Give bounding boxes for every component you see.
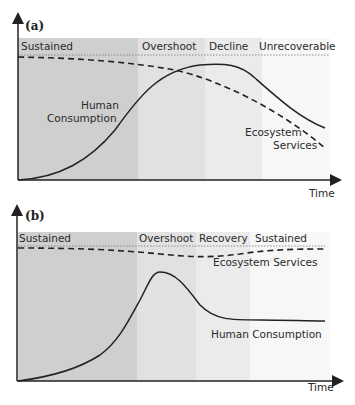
panel-a: (a) Sustained Overshoot Decline Unrecove… [18, 18, 336, 199]
human-consumption-label: Human [81, 99, 119, 111]
x-axis-label: Time [307, 381, 334, 393]
phase-unrecoverable-bg [262, 38, 330, 180]
phase-sustained-2-bg [250, 232, 330, 381]
panel-label: (a) [25, 19, 44, 33]
human-consumption-label: Human Consumption [211, 328, 322, 340]
ecosystem-services-label: Ecosystem Services [213, 256, 317, 268]
phase-overshoot-bg [137, 232, 196, 381]
figure: (a) Sustained Overshoot Decline Unrecove… [0, 0, 355, 405]
phase-label-decline: Decline [209, 40, 248, 52]
phase-label-recovery: Recovery [199, 232, 248, 244]
phase-label-unrecoverable: Unrecoverable [259, 40, 336, 52]
phase-decline-bg [205, 38, 262, 180]
phase-overshoot-bg [138, 38, 205, 180]
phase-label-overshoot: Overshoot [142, 40, 196, 52]
x-axis-label: Time [308, 187, 335, 199]
phase-label-sustained: Sustained [21, 40, 73, 52]
phase-sustained-bg [18, 38, 138, 180]
phase-label-sustained-2: Sustained [255, 232, 307, 244]
phase-label-sustained: Sustained [19, 232, 71, 244]
phase-sustained-bg [18, 232, 137, 381]
ecosystem-services-label-2: Services [273, 139, 317, 151]
phase-label-overshoot: Overshoot [139, 232, 193, 244]
ecosystem-services-label: Ecosystem [245, 126, 302, 138]
panel-label: (b) [25, 209, 45, 223]
human-consumption-label-2: Consumption [47, 112, 117, 124]
panel-b: (b) Sustained Overshoot Recovery Sustain… [17, 209, 338, 393]
